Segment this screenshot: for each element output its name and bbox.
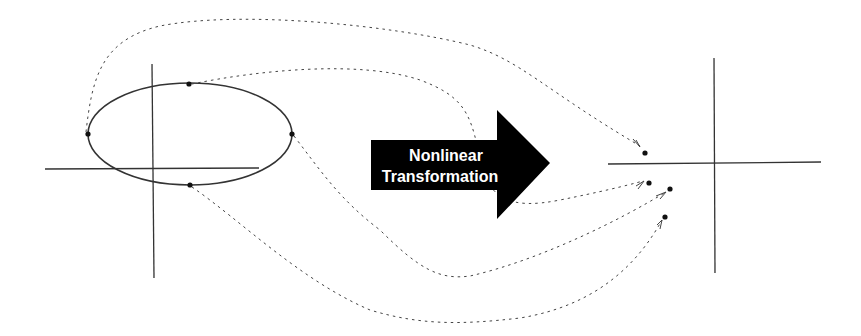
- arrow-label-line1: Nonlinear: [409, 147, 483, 164]
- mapped-point-left: [642, 150, 647, 155]
- point-right: [289, 131, 294, 136]
- arrowhead-icon: [636, 181, 644, 189]
- mapping-curve-left: [86, 19, 640, 146]
- point-left: [85, 131, 90, 136]
- point-bottom: [187, 182, 192, 187]
- mapping-curve-bottom: [192, 187, 662, 323]
- transformation-arrow-icon: [371, 110, 550, 219]
- left-x-axis: [45, 168, 259, 169]
- transformation-diagram: Nonlinear Transformation: [0, 0, 861, 336]
- mapped-point-top: [646, 180, 651, 185]
- input-ellipse: [88, 83, 292, 185]
- right-y-axis: [714, 58, 715, 273]
- point-top: [186, 81, 191, 86]
- mapped-point-bottom: [662, 214, 667, 219]
- arrow-label-line2: Transformation: [382, 168, 498, 185]
- arrowhead-icon: [657, 220, 662, 229]
- left-y-axis: [152, 64, 154, 278]
- mapped-point-right: [667, 186, 672, 191]
- arrowhead-icon: [656, 192, 666, 199]
